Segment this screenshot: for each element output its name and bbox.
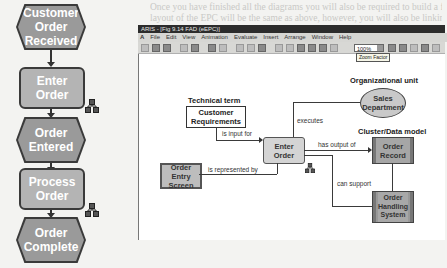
node-label: Order xyxy=(378,194,408,203)
aris-logo-icon: A xyxy=(140,33,144,42)
layout-icon[interactable] xyxy=(308,44,316,52)
process-hierarchy-icon[interactable] xyxy=(305,163,315,173)
edge-line xyxy=(392,163,393,191)
edge-label-has-output-of: has output of xyxy=(318,141,356,148)
grid-icon[interactable] xyxy=(421,44,429,52)
cluster-order-record[interactable]: Order Record xyxy=(372,137,414,164)
event-label: Entered xyxy=(29,140,74,154)
node-label: Sales xyxy=(362,94,404,103)
background-line: Once you have finished all the diagrams … xyxy=(150,2,442,13)
zoom-tools xyxy=(388,44,440,52)
find-icon[interactable] xyxy=(191,44,199,52)
arrow-right-icon xyxy=(259,137,263,143)
zoom-value: 100% xyxy=(357,46,371,52)
event-label: Order xyxy=(23,20,79,34)
function-enter-order: Enter Order xyxy=(19,67,85,109)
edge-line xyxy=(293,102,360,103)
paste-icon[interactable] xyxy=(258,44,266,52)
event-label: Received xyxy=(23,34,79,48)
node-label: Order Entry xyxy=(162,163,200,181)
function-label: Order xyxy=(36,88,69,102)
menu-file[interactable]: File xyxy=(150,33,160,42)
menu-arrange[interactable]: Arrange xyxy=(284,33,305,42)
zoom-factor-select[interactable]: 100% xyxy=(354,44,384,52)
node-label: Handling xyxy=(378,203,408,212)
edge-label-can-support: can support xyxy=(337,180,371,187)
fit-icon[interactable] xyxy=(410,44,418,52)
node-label: Enter xyxy=(274,142,294,151)
menu-view[interactable]: View xyxy=(182,33,195,42)
edge-line xyxy=(304,155,332,156)
node-label: System xyxy=(378,211,408,220)
arrow-right-icon xyxy=(368,147,372,153)
menu-bar: A File Edit View Animation Evaluate Inse… xyxy=(138,33,447,42)
window-border xyxy=(138,54,139,240)
menu-insert[interactable]: Insert xyxy=(263,33,278,42)
cut-icon[interactable] xyxy=(236,44,244,52)
event-label: Order xyxy=(24,226,79,240)
edge-line xyxy=(216,140,261,141)
copy-icon[interactable] xyxy=(247,44,255,52)
open-icon[interactable] xyxy=(152,44,160,52)
node-label: Screen xyxy=(162,181,200,190)
new-icon[interactable] xyxy=(141,44,149,52)
insert-object-icon[interactable] xyxy=(297,44,305,52)
node-label: Department xyxy=(362,103,404,112)
menu-help[interactable]: Help xyxy=(339,33,351,42)
background-paragraph: Once you have finished all the diagrams … xyxy=(150,2,442,24)
print-icon[interactable] xyxy=(208,44,216,52)
window-title: ARIS - [Fig 9.14 FAD (eEPC)] xyxy=(141,26,220,32)
menu-evaluate[interactable]: Evaluate xyxy=(234,33,257,42)
edge-label-is-represented-by: is represented by xyxy=(208,166,258,173)
edge-label-executes: executes xyxy=(297,117,323,124)
node-label: Customer xyxy=(191,108,241,117)
org-unit-heading: Organizational unit xyxy=(350,76,418,85)
edge-line xyxy=(199,174,277,175)
event-label: Customer xyxy=(23,6,79,20)
menu-animation[interactable]: Animation xyxy=(201,33,228,42)
node-label: Record xyxy=(380,151,406,160)
menu-edit[interactable]: Edit xyxy=(166,33,176,42)
org-unit-sales-department[interactable]: Sales Department xyxy=(360,88,406,118)
chevron-down-icon[interactable] xyxy=(377,45,383,51)
event-label: Order xyxy=(29,126,74,140)
more-icon[interactable] xyxy=(432,44,440,52)
node-label: Requirements xyxy=(191,117,241,126)
node-label: Order xyxy=(380,142,406,151)
edge-line xyxy=(293,102,294,137)
node-label: Order xyxy=(274,151,294,160)
print-preview-icon[interactable] xyxy=(219,44,227,52)
function-enter-order-fad[interactable]: Enter Order xyxy=(263,137,305,164)
save-icon[interactable] xyxy=(163,44,171,52)
edge-line xyxy=(332,206,372,207)
menu-window[interactable]: Window xyxy=(312,33,333,42)
function-label: Process xyxy=(29,175,76,189)
zoom-tooltip: Zoom Factor xyxy=(356,53,390,62)
screen-order-entry[interactable]: Order Entry Screen xyxy=(160,163,202,189)
edge-line xyxy=(216,127,217,141)
event-order-entered: Order Entered xyxy=(16,117,86,163)
process-hierarchy-icon[interactable] xyxy=(85,99,99,113)
window-titlebar: ARIS - [Fig 9.14 FAD (eEPC)] xyxy=(138,25,445,33)
event-customer-order-received: Customer Order Received xyxy=(16,4,86,50)
redo-icon[interactable] xyxy=(286,44,294,52)
properties-icon[interactable] xyxy=(180,44,188,52)
zoom-out-icon[interactable] xyxy=(399,44,407,52)
function-label: Order xyxy=(29,189,76,203)
event-order-complete: Order Complete xyxy=(16,217,86,263)
lightbulb-icon[interactable] xyxy=(330,44,338,52)
undo-icon[interactable] xyxy=(275,44,283,52)
edge-line xyxy=(304,150,369,151)
edge-line xyxy=(277,163,278,174)
cluster-heading: Cluster/Data model xyxy=(358,127,426,136)
technical-term-customer-requirements[interactable]: Customer Requirements xyxy=(186,106,246,128)
edge-label-is-input-for: is input for xyxy=(222,130,252,137)
application-system-order-handling[interactable]: Order Handling System xyxy=(372,191,414,223)
zoom-in-icon[interactable] xyxy=(388,44,396,52)
function-process-order: Process Order xyxy=(19,168,85,210)
model-icon[interactable] xyxy=(319,44,327,52)
event-label: Complete xyxy=(24,240,79,254)
process-hierarchy-icon[interactable] xyxy=(85,203,99,217)
background-line: layout of the EPC will be the same as ab… xyxy=(150,13,442,24)
edge-line xyxy=(332,155,333,206)
